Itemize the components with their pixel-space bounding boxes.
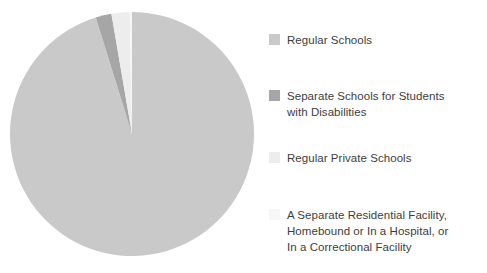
- pie-chart-figure: Regular Schools Separate Schools for Stu…: [0, 0, 487, 273]
- legend-label-regular-schools: Regular Schools: [287, 32, 372, 48]
- legend-label-regular-private-schools: Regular Private Schools: [287, 150, 412, 166]
- pie-chart-svg: [10, 11, 256, 259]
- legend-label-separate-schools: Separate Schools for Students with Disab…: [287, 88, 444, 120]
- legend-item-separate-residential-facility[interactable]: A Separate Residential Facility, Homebou…: [269, 207, 487, 255]
- legend-swatch-regular-private-schools: [269, 152, 280, 163]
- legend-label-separate-residential-facility: A Separate Residential Facility, Homebou…: [287, 207, 448, 255]
- legend-swatch-separate-schools: [269, 90, 280, 101]
- pie-slice-group: [10, 12, 254, 256]
- legend-item-regular-schools[interactable]: Regular Schools: [269, 32, 487, 48]
- pie-chart-plot-area: [10, 11, 256, 259]
- legend-swatch-separate-residential-facility: [269, 209, 280, 220]
- legend-item-separate-schools[interactable]: Separate Schools for Students with Disab…: [269, 88, 487, 120]
- pie-slice[interactable]: [10, 12, 254, 256]
- legend-item-regular-private-schools[interactable]: Regular Private Schools: [269, 150, 487, 166]
- legend-swatch-regular-schools: [269, 34, 280, 45]
